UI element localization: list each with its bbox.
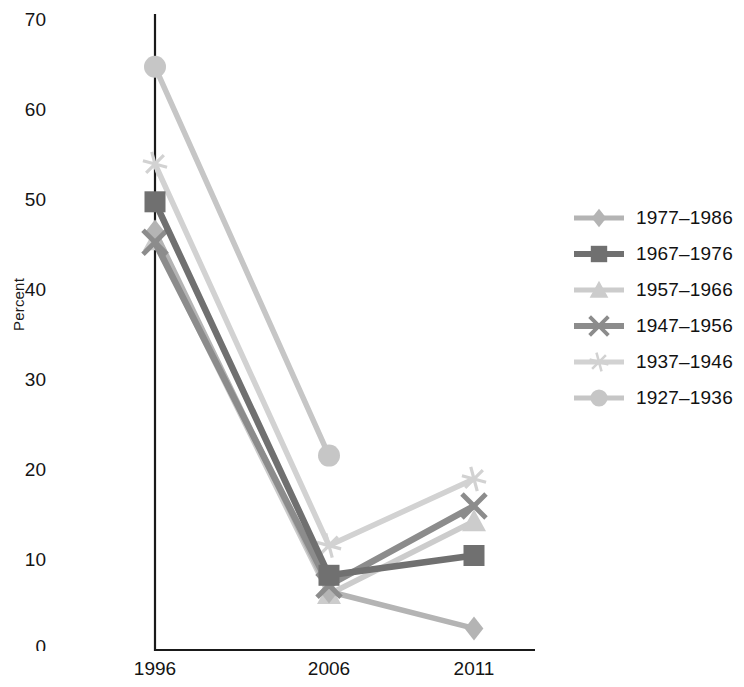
square-marker — [464, 545, 485, 566]
diamond-marker — [592, 209, 607, 228]
asterisk-marker — [462, 467, 486, 491]
y-tick-label-10: 10 — [0, 550, 46, 570]
data-point-square — [319, 565, 340, 586]
data-point-asterisk — [462, 467, 486, 491]
square-marker — [145, 191, 166, 212]
legend-key-swatch — [572, 275, 626, 305]
legend-item-label: 1947–1956 — [626, 315, 733, 337]
legend-item[interactable]: 1947–1956 — [572, 308, 744, 344]
data-point-diamond — [592, 209, 607, 228]
data-point-diamond — [465, 616, 484, 640]
x-tick-label-2011: 2011 — [424, 658, 524, 680]
legend-key-swatch — [572, 203, 626, 233]
square-marker — [319, 565, 340, 586]
legend-item[interactable]: 1937–1946 — [572, 344, 744, 380]
series-1937-1946 — [143, 152, 486, 558]
legend-item[interactable]: 1927–1936 — [572, 380, 744, 416]
series-line — [155, 164, 474, 546]
legend-item[interactable]: 1967–1976 — [572, 236, 744, 272]
diamond-marker — [465, 616, 484, 640]
legend-item[interactable]: 1957–1966 — [572, 272, 744, 308]
square-marker — [591, 246, 607, 262]
series-1927-1936 — [144, 56, 340, 467]
x-tick-label-2006: 2006 — [279, 658, 379, 680]
y-tick-label-50: 50 — [0, 190, 46, 210]
y-tick-label-30: 30 — [0, 370, 46, 390]
line-chart: Percent 70 60 50 40 30 20 10 0 1996 2006… — [0, 0, 744, 687]
legend-marker-asterisk-icon — [572, 347, 626, 377]
y-axis-title: Percent — [10, 265, 27, 345]
y-tick-label-0: 0 — [0, 637, 46, 651]
legend-item-label: 1927–1936 — [626, 387, 733, 409]
data-point-circle — [590, 389, 607, 406]
y-tick-label-70: 70 — [0, 10, 46, 30]
legend-marker-diamond-icon — [572, 203, 626, 233]
legend: 1977–19861967–19761957–19661947–19561937… — [572, 200, 744, 416]
legend-key-swatch — [572, 239, 626, 269]
data-point-square — [145, 191, 166, 212]
circle-marker — [590, 389, 607, 406]
y-tick-label-60: 60 — [0, 100, 46, 120]
legend-item[interactable]: 1977–1986 — [572, 200, 744, 236]
legend-marker-x-icon — [572, 311, 626, 341]
legend-key-swatch — [572, 383, 626, 413]
y-tick-label-20: 20 — [0, 460, 46, 480]
x-tick-label-1996: 1996 — [105, 658, 205, 680]
data-point-square — [591, 246, 607, 262]
data-point-square — [464, 545, 485, 566]
series-1977-1986 — [146, 220, 484, 641]
legend-marker-square-icon — [572, 239, 626, 269]
legend-item-label: 1957–1966 — [626, 279, 733, 301]
circle-marker — [318, 445, 340, 467]
data-point-circle — [318, 445, 340, 467]
legend-key-swatch — [572, 347, 626, 377]
legend-item-label: 1977–1986 — [626, 207, 733, 229]
data-point-circle — [144, 56, 166, 78]
y-tick-label-40: 40 — [0, 280, 46, 300]
legend-key-swatch — [572, 311, 626, 341]
series-line — [155, 242, 474, 585]
legend-item-label: 1937–1946 — [626, 351, 733, 373]
legend-item-label: 1967–1976 — [626, 243, 733, 265]
legend-marker-circle-icon — [572, 383, 626, 413]
circle-marker — [144, 56, 166, 78]
legend-marker-triangle-icon — [572, 275, 626, 305]
